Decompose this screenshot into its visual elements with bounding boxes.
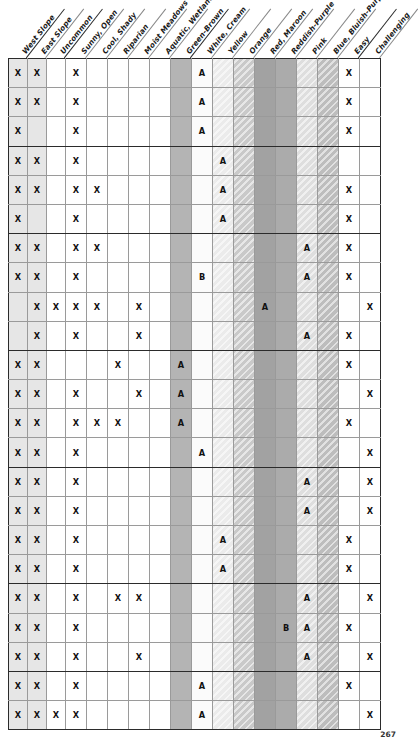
cell-white_cream: B — [192, 263, 213, 292]
cell-reddish_purple — [276, 380, 297, 409]
cell-uncommon — [47, 263, 66, 292]
cell-west_slope: X — [9, 175, 28, 204]
cell-challenging — [360, 175, 381, 204]
cell-cool_shady — [87, 146, 108, 175]
cell-sunny_open: X — [66, 59, 87, 88]
cell-easy: X — [339, 613, 360, 642]
table-row: XXXAX — [9, 438, 381, 467]
cell-uncommon — [47, 526, 66, 555]
cell-white_cream — [192, 555, 213, 584]
cell-green_brown — [171, 234, 192, 263]
cell-yellow — [213, 701, 234, 730]
cell-blue_purple — [318, 350, 339, 379]
cell-easy — [339, 438, 360, 467]
cell-yellow — [213, 350, 234, 379]
table-row: XXXAX — [9, 321, 381, 350]
table-row: XXXAX — [9, 496, 381, 525]
cell-orange — [234, 701, 255, 730]
cell-orange — [234, 642, 255, 671]
cell-green_brown — [171, 59, 192, 88]
cell-easy: X — [339, 204, 360, 233]
cell-sunny_open — [66, 350, 87, 379]
cell-easy: X — [339, 526, 360, 555]
cell-moist_meadows — [129, 88, 150, 117]
cell-moist_meadows — [129, 701, 150, 730]
cell-east_slope: X — [28, 496, 47, 525]
cell-uncommon — [47, 175, 66, 204]
cell-aquatic — [150, 584, 171, 613]
cell-easy: X — [339, 175, 360, 204]
cell-white_cream — [192, 380, 213, 409]
cell-aquatic — [150, 467, 171, 496]
cell-challenging — [360, 146, 381, 175]
cell-yellow — [213, 496, 234, 525]
cell-aquatic — [150, 671, 171, 700]
cell-challenging — [360, 234, 381, 263]
cell-riparian: X — [108, 350, 129, 379]
cell-blue_purple — [318, 701, 339, 730]
cell-orange — [234, 234, 255, 263]
cell-east_slope: X — [28, 438, 47, 467]
cell-white_cream: A — [192, 671, 213, 700]
cell-green_brown — [171, 526, 192, 555]
cell-sunny_open: X — [66, 496, 87, 525]
cell-moist_meadows — [129, 175, 150, 204]
cell-white_cream: A — [192, 701, 213, 730]
cell-cool_shady — [87, 671, 108, 700]
cell-reddish_purple — [276, 234, 297, 263]
cell-red_maroon — [255, 584, 276, 613]
cell-sunny_open: X — [66, 175, 87, 204]
cell-east_slope: X — [28, 175, 47, 204]
cell-red_maroon — [255, 350, 276, 379]
cell-blue_purple — [318, 175, 339, 204]
cell-aquatic — [150, 496, 171, 525]
cell-sunny_open: X — [66, 438, 87, 467]
cell-reddish_purple — [276, 438, 297, 467]
cell-reddish_purple — [276, 263, 297, 292]
cell-riparian — [108, 467, 129, 496]
cell-uncommon — [47, 642, 66, 671]
cell-east_slope: X — [28, 292, 47, 321]
cell-white_cream — [192, 409, 213, 438]
cell-green_brown: A — [171, 380, 192, 409]
cell-moist_meadows: X — [129, 321, 150, 350]
cell-uncommon — [47, 234, 66, 263]
table-row: XXXBAX — [9, 263, 381, 292]
cell-east_slope: X — [28, 409, 47, 438]
cell-west_slope: X — [9, 204, 28, 233]
cell-pink: A — [297, 613, 318, 642]
cell-easy: X — [339, 409, 360, 438]
cell-east_slope: X — [28, 701, 47, 730]
cell-easy: X — [339, 117, 360, 146]
cell-east_slope: X — [28, 146, 47, 175]
cell-yellow — [213, 438, 234, 467]
cell-challenging — [360, 204, 381, 233]
cell-green_brown — [171, 175, 192, 204]
cell-riparian — [108, 292, 129, 321]
cell-easy: X — [339, 59, 360, 88]
cell-easy: X — [339, 234, 360, 263]
cell-pink: A — [297, 263, 318, 292]
cell-aquatic — [150, 321, 171, 350]
cell-yellow — [213, 380, 234, 409]
cell-west_slope: X — [9, 350, 28, 379]
cell-pink — [297, 292, 318, 321]
cell-blue_purple — [318, 292, 339, 321]
cell-yellow — [213, 59, 234, 88]
cell-moist_meadows — [129, 671, 150, 700]
cell-uncommon — [47, 350, 66, 379]
cell-west_slope: X — [9, 380, 28, 409]
cell-west_slope: X — [9, 467, 28, 496]
cell-green_brown: A — [171, 409, 192, 438]
cell-yellow — [213, 671, 234, 700]
cell-green_brown — [171, 467, 192, 496]
cell-moist_meadows: X — [129, 380, 150, 409]
table-row: XXXXAX — [9, 701, 381, 730]
cell-green_brown — [171, 204, 192, 233]
table-row: XXXAX — [9, 526, 381, 555]
cell-aquatic — [150, 59, 171, 88]
cell-uncommon — [47, 584, 66, 613]
species-attribute-matrix: XXXAXXXXAXXXAXXXXAXXXXAXXXAXXXXXAXXXXBAX… — [8, 58, 381, 730]
cell-riparian — [108, 380, 129, 409]
cell-pink — [297, 88, 318, 117]
